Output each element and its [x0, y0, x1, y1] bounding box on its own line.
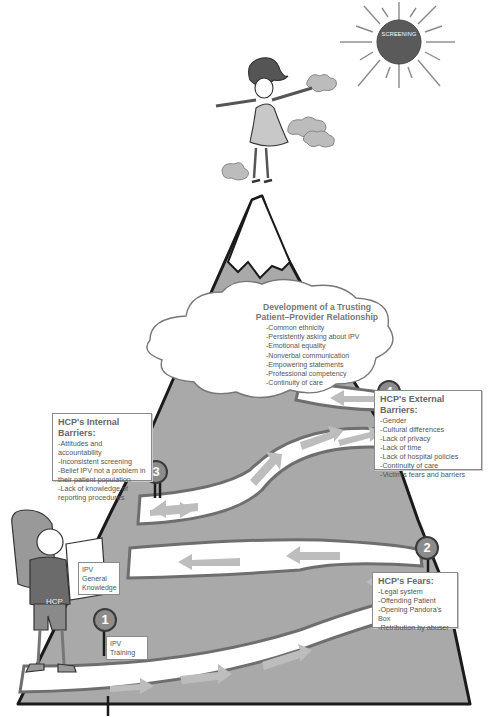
map-label-line1: IPV General	[82, 565, 116, 583]
cloud-title-line2: Patient–Provider Relationship	[222, 312, 412, 322]
external-barrier-item: -Lack of privacy	[380, 434, 476, 443]
external-barrier-item: -Lack of hospital policies	[380, 452, 476, 461]
cloud-item: -Persistently asking about IPV	[266, 332, 412, 341]
internal-barrier-item: reporting procedures	[58, 493, 146, 502]
internal-barrier-item: -Lack of knowledge of	[58, 484, 146, 493]
internal-barriers-title: HCP's Internal Barriers:	[58, 417, 146, 439]
ipv-general-knowledge-label: IPV General Knowledge	[78, 562, 120, 595]
cloud-item: -Emotional equality	[266, 341, 412, 350]
cloud-item: -Common ethnicity	[266, 323, 412, 332]
screening-label: SCREENING	[373, 31, 425, 37]
trust-cloud-text: Development of a Trusting Patient–Provid…	[222, 302, 412, 387]
external-barrier-item: -Gender	[380, 416, 476, 425]
ipv-training-label: IPV Training	[106, 636, 148, 660]
fear-item: -Opening Pandora's Box	[378, 605, 452, 623]
map-label-line2: Knowledge	[82, 583, 116, 592]
internal-barrier-item: their patient population	[58, 475, 146, 484]
fears-title: HCP's Fears:	[378, 576, 452, 587]
cloud-item: -Nonverbal communication	[266, 351, 412, 360]
external-barrier-item: -Continuity of care	[380, 461, 476, 470]
fears-box: HCP's Fears: -Legal system -Offending Pa…	[372, 572, 458, 628]
internal-barrier-item: -Inconsistent screening	[58, 457, 146, 466]
step-marker-2: 2	[415, 536, 439, 560]
external-barrier-item: -Victim's fears and barriers	[380, 470, 476, 479]
step-marker-1: 1	[93, 608, 117, 632]
snow-cap	[228, 196, 290, 278]
sun-icon	[340, 2, 455, 88]
external-barriers-title: HCP's External Barriers:	[380, 394, 476, 416]
internal-barriers-box: HCP's Internal Barriers: -Attitudes and …	[52, 413, 152, 481]
fear-item: -Offending Patient	[378, 596, 452, 605]
hcp-shirt-label: HCP	[46, 597, 63, 606]
cloud-title-line1: Development of a Trusting	[222, 302, 412, 312]
fear-item: -Legal system	[378, 587, 452, 596]
fear-item: -Retribution by abuser	[378, 623, 452, 632]
cloud-item: -Professional competency	[266, 369, 412, 378]
cloud-item: -Empowering statements	[266, 360, 412, 369]
external-barriers-box: HCP's External Barriers: -Gender -Cultur…	[374, 390, 482, 470]
external-barrier-item: -Lack of time	[380, 443, 476, 452]
internal-barrier-item: -Belief IPV not a problem in	[58, 466, 146, 475]
external-barrier-item: -Cultural differences	[380, 425, 476, 434]
internal-barrier-item: -Attitudes and accountability	[58, 439, 146, 457]
